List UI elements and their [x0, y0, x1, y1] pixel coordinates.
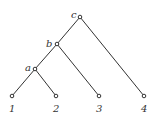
edge-a-1 — [12, 69, 35, 96]
edge-a-2 — [35, 69, 56, 96]
leaf-2 — [54, 94, 58, 98]
label-leaf-2: 2 — [52, 103, 59, 114]
label-b: b — [46, 38, 52, 49]
node-a — [33, 67, 37, 71]
label-leaf-3: 3 — [96, 103, 102, 114]
tree-diagram: c b a 1 2 3 4 — [0, 0, 159, 122]
label-leaf-4: 4 — [140, 103, 147, 114]
edge-b-3 — [57, 44, 99, 96]
leaf-3 — [97, 94, 101, 98]
label-c: c — [71, 9, 77, 20]
node-c — [78, 15, 82, 19]
label-leaf-1: 1 — [9, 103, 15, 114]
leaf-1 — [10, 94, 14, 98]
node-b — [55, 42, 59, 46]
leaf-4 — [142, 94, 146, 98]
label-a: a — [25, 62, 31, 73]
edge-c-b — [57, 17, 80, 44]
